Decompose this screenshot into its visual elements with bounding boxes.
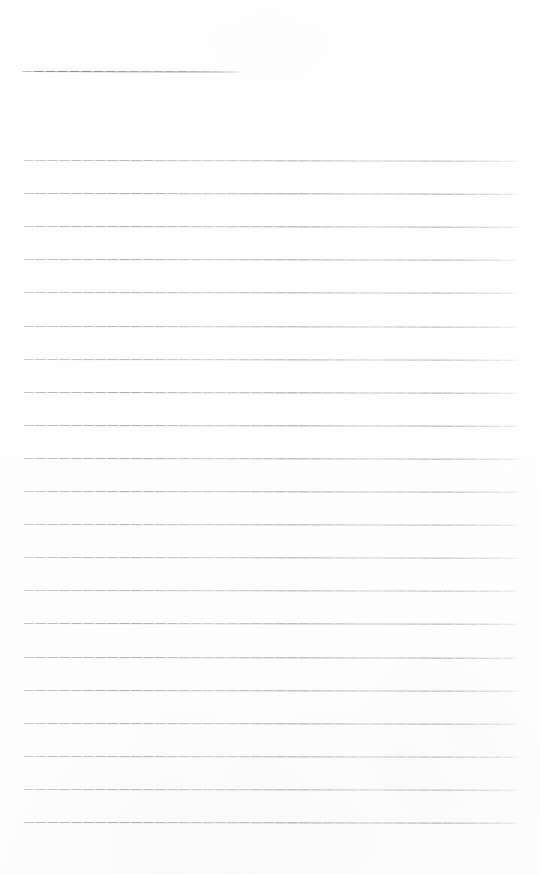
- ruled-line: [24, 259, 518, 261]
- ruled-line: [24, 160, 518, 162]
- header-short-rule: [22, 71, 240, 72]
- ruled-line: [24, 326, 518, 328]
- ruled-line: [24, 690, 518, 692]
- ruled-line: [24, 458, 518, 460]
- ruled-line: [24, 392, 518, 394]
- ruled-line: [24, 657, 518, 659]
- ruled-line: [24, 723, 518, 725]
- ruled-line: [24, 557, 518, 559]
- ruled-line: [24, 756, 518, 758]
- ruled-line: [24, 193, 518, 195]
- ruled-line: [24, 292, 518, 294]
- ruled-line: [24, 491, 518, 493]
- ruled-line: [24, 623, 518, 625]
- paper-texture: [0, 0, 540, 874]
- ruled-line: [24, 789, 518, 791]
- scanned-page: [0, 0, 540, 874]
- ruled-line: [24, 226, 518, 228]
- ruled-line: [24, 425, 518, 427]
- ruled-line: [24, 359, 518, 361]
- ruled-line: [24, 590, 518, 592]
- page-text-content: [0, 0, 540, 874]
- ruled-line: [24, 524, 518, 526]
- ruled-line: [24, 822, 518, 824]
